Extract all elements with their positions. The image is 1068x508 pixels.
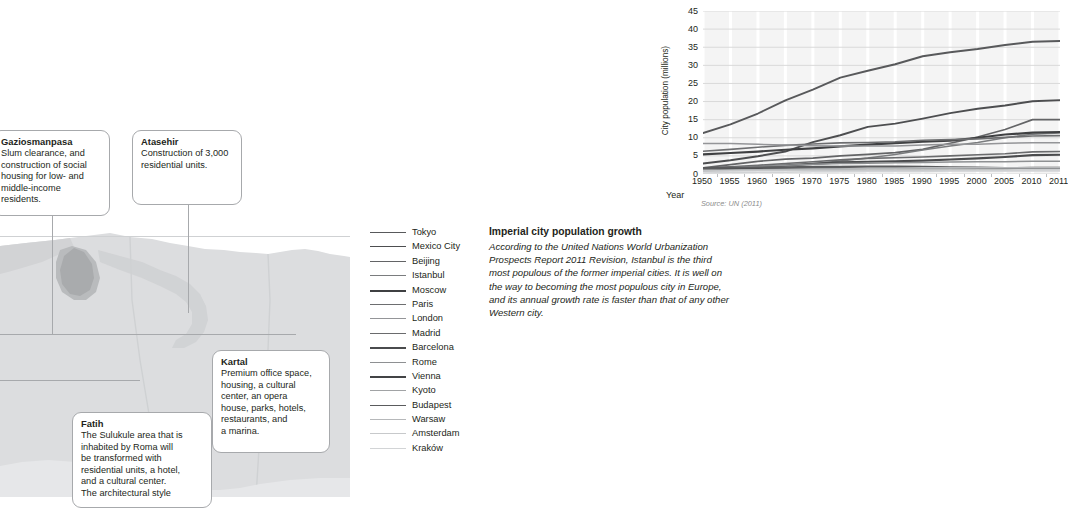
legend-swatch <box>370 290 406 292</box>
chart-x-tick-label: 2005 <box>994 176 1014 186</box>
chart-series-svg <box>703 11 1060 174</box>
legend-item-madrid[interactable]: Madrid <box>370 327 490 341</box>
chart-x-tick-mark <box>991 174 992 177</box>
chart-y-tick-label: 40 <box>688 25 698 34</box>
chart-x-tick-mark <box>1046 174 1047 177</box>
chart-x-tick-label: 1985 <box>884 176 904 186</box>
chart-x-tick-label: 1995 <box>939 176 959 186</box>
legend-label: Vienna <box>412 370 441 383</box>
chart-y-tick-label: 25 <box>688 79 698 88</box>
legend-swatch <box>370 376 406 378</box>
callout-leader-gaziosmanpasa <box>52 216 53 334</box>
legend-swatch <box>370 261 406 262</box>
legend-swatch <box>370 448 406 449</box>
legend-swatch <box>370 275 406 276</box>
chart-x-tick-label: 2000 <box>967 176 987 186</box>
legend-item-beijing[interactable]: Beijing <box>370 255 490 269</box>
chart-x-tick-mark <box>909 174 910 177</box>
legend-item-kraków[interactable]: Kraków <box>370 442 490 456</box>
side-text-heading: Imperial city population growth <box>489 225 731 238</box>
chart-x-tick-mark <box>827 174 828 177</box>
chart-x-tick-mark <box>882 174 883 177</box>
legend-label: Rome <box>412 356 437 369</box>
legend-item-london[interactable]: London <box>370 312 490 326</box>
legend-label: Kraków <box>412 442 443 455</box>
chart-y-tick-label: 5 <box>693 151 698 160</box>
legend-swatch <box>370 362 406 363</box>
legend-label: Kyoto <box>412 384 436 397</box>
legend-item-mexico-city[interactable]: Mexico City <box>370 240 490 254</box>
legend-swatch <box>370 347 406 349</box>
chart-y-tick-label: 35 <box>688 43 698 52</box>
legend-label: London <box>412 312 443 325</box>
chart-y-tick-label: 45 <box>688 7 698 16</box>
legend-label: Paris <box>412 298 433 311</box>
side-text-body: According to the United Nations World Ur… <box>489 240 731 319</box>
callout-body: The Sulukule area that is inhabited by R… <box>81 430 203 500</box>
legend-item-paris[interactable]: Paris <box>370 298 490 312</box>
chart-x-tick-label: 1970 <box>802 176 822 186</box>
legend-label: Amsterdam <box>412 427 460 440</box>
callout-gaziosmanpasa[interactable]: Gaziosmanpasa Slum clearance, and constr… <box>0 130 110 216</box>
chart-x-axis-title: Year <box>666 190 684 200</box>
chart-x-tick-label: 2011 <box>1049 176 1068 186</box>
chart-y-tick-label: 15 <box>688 115 698 124</box>
legend-item-istanbul[interactable]: Istanbul <box>370 269 490 283</box>
callout-leader-atasehir <box>188 205 189 313</box>
chart-x-tick-label: 1955 <box>719 176 739 186</box>
legend-swatch <box>370 304 406 305</box>
legend-item-tokyo[interactable]: Tokyo <box>370 226 490 240</box>
legend-item-barcelona[interactable]: Barcelona <box>370 341 490 355</box>
legend-label: Tokyo <box>412 226 436 239</box>
legend-label: Warsaw <box>412 413 445 426</box>
chart-x-tick-mark <box>744 174 745 177</box>
chart-x-tick-label: 1960 <box>747 176 767 186</box>
chart-x-tick-mark <box>717 174 718 177</box>
legend-label: Beijing <box>412 255 440 268</box>
callout-body: Slum clearance, and construction of soci… <box>1 148 101 206</box>
legend-label: Madrid <box>412 327 440 340</box>
map-connector-line-1 <box>0 334 296 335</box>
map-connector-line-2 <box>0 380 140 381</box>
chart-y-tick-label: 30 <box>688 61 698 70</box>
legend-label: Istanbul <box>412 269 445 282</box>
legend-swatch <box>370 390 406 391</box>
callout-title: Gaziosmanpasa <box>1 136 101 148</box>
callout-kartal[interactable]: Kartal Premium office space, housing, a … <box>212 350 330 453</box>
legend-swatch <box>370 333 406 334</box>
chart-x-tick-label: 1965 <box>774 176 794 186</box>
legend-swatch <box>370 405 406 406</box>
chart-legend: TokyoMexico CityBeijingIstanbulMoscowPar… <box>370 226 490 456</box>
chart-y-tick-label: 10 <box>688 133 698 142</box>
chart-x-tick-mark <box>854 174 855 177</box>
chart-x-tick-label: 2010 <box>1022 176 1042 186</box>
chart-y-tick-label: 20 <box>688 97 698 106</box>
chart-x-tick-mark <box>1019 174 1020 177</box>
side-text-block: Imperial city population growth Accordin… <box>489 225 731 319</box>
legend-swatch <box>370 246 406 247</box>
legend-item-rome[interactable]: Rome <box>370 356 490 370</box>
chart-x-tick-labels: 1950195519601965197019751980198519901995… <box>703 176 1060 190</box>
legend-swatch <box>370 318 406 319</box>
legend-label: Barcelona <box>412 341 454 354</box>
legend-swatch <box>370 433 406 434</box>
legend-item-amsterdam[interactable]: Amsterdam <box>370 427 490 441</box>
legend-item-kyoto[interactable]: Kyoto <box>370 384 490 398</box>
chart-x-tick-label: 1990 <box>912 176 932 186</box>
callout-atasehir[interactable]: Atasehir Construction of 3,000 residenti… <box>132 130 242 205</box>
legend-item-vienna[interactable]: Vienna <box>370 370 490 384</box>
chart-x-tick-label: 1975 <box>829 176 849 186</box>
callout-title: Atasehir <box>141 136 233 148</box>
chart-x-tick-label: 1980 <box>857 176 877 186</box>
legend-label: Mexico City <box>412 240 460 253</box>
callout-body: Construction of 3,000 residential units. <box>141 148 233 171</box>
chart-x-tick-mark <box>936 174 937 177</box>
chart-x-tick-mark <box>799 174 800 177</box>
legend-item-warsaw[interactable]: Warsaw <box>370 413 490 427</box>
callout-fatih[interactable]: Fatih The Sulukule area that is inhabite… <box>72 412 212 508</box>
legend-item-budapest[interactable]: Budapest <box>370 399 490 413</box>
legend-item-moscow[interactable]: Moscow <box>370 284 490 298</box>
chart-plot-area <box>703 11 1060 174</box>
population-chart: City population (millions) 0510152025303… <box>330 0 766 220</box>
